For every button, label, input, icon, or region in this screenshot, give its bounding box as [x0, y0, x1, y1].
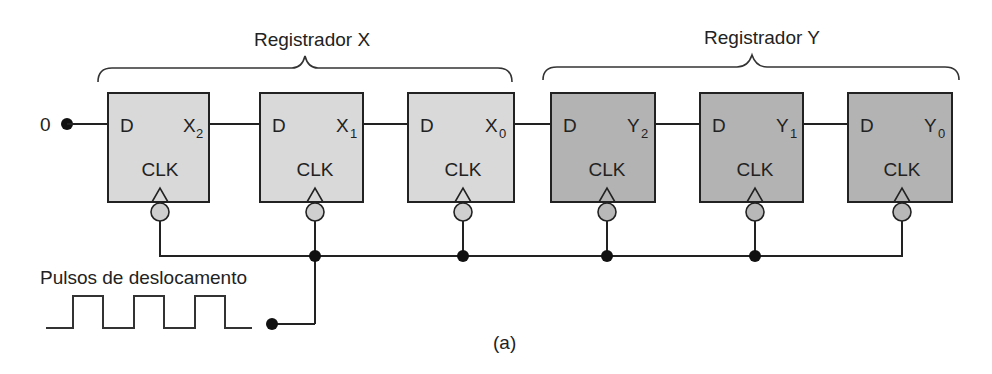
input-value: 0 [40, 114, 51, 135]
svg-text:CLK: CLK [589, 159, 626, 180]
svg-text:D: D [120, 115, 134, 136]
svg-text:1: 1 [350, 126, 357, 141]
flipflop-x2: D X 2 CLK [108, 93, 209, 221]
clock-label: Pulsos de deslocamento [40, 267, 247, 288]
figure-caption: (a) [493, 332, 516, 353]
svg-text:D: D [712, 115, 726, 136]
svg-text:D: D [563, 115, 577, 136]
svg-text:CLK: CLK [737, 159, 774, 180]
flipflop-y1: D Y 1 CLK [700, 93, 803, 221]
flipflop-x0: D X 0 CLK [408, 93, 514, 221]
svg-text:X: X [485, 115, 498, 136]
register-y-brace [543, 55, 959, 80]
svg-text:CLK: CLK [445, 159, 482, 180]
svg-text:X: X [183, 115, 196, 136]
svg-text:Y: Y [924, 115, 937, 136]
shift-register-diagram: Registrador X Registrador Y 0 D X 2 CLK … [0, 0, 992, 374]
svg-text:CLK: CLK [884, 159, 921, 180]
svg-text:1: 1 [790, 126, 797, 141]
svg-text:CLK: CLK [297, 159, 334, 180]
register-y-label: Registrador Y [704, 27, 820, 48]
svg-text:Y: Y [627, 115, 640, 136]
flipflop-x1: D X 1 CLK [260, 93, 363, 221]
svg-text:0: 0 [499, 126, 506, 141]
register-x-brace [98, 56, 512, 82]
clock-bus [160, 221, 902, 324]
clock-waveform [46, 296, 252, 328]
flipflop-y2: D Y 2 CLK [551, 93, 655, 221]
svg-text:CLK: CLK [142, 159, 179, 180]
svg-text:D: D [272, 115, 286, 136]
svg-text:Y: Y [776, 115, 789, 136]
svg-text:D: D [420, 115, 434, 136]
register-x-label: Registrador X [254, 29, 370, 50]
clock-input-node [266, 318, 278, 330]
svg-text:2: 2 [641, 126, 648, 141]
svg-text:X: X [336, 115, 349, 136]
svg-text:0: 0 [938, 126, 945, 141]
flipflop-y0: D Y 0 CLK [848, 93, 952, 221]
svg-text:D: D [860, 115, 874, 136]
svg-text:2: 2 [196, 126, 203, 141]
